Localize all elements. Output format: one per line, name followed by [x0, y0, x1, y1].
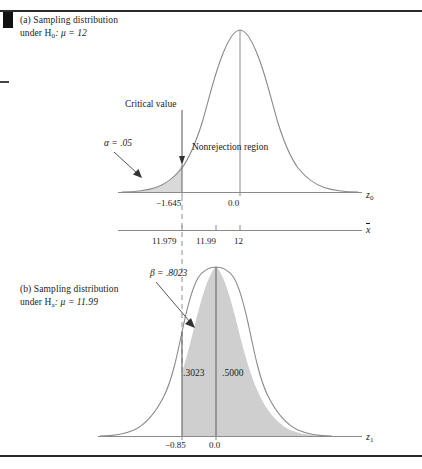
panel-a-caption-line2-prefix: under H — [20, 28, 52, 38]
panel-a-caption-line1: (a) Sampling distribution — [20, 15, 118, 25]
panel-b-axis-label-sub: 1 — [370, 436, 374, 444]
panel-a-caption-line2-suffix: : μ = 12 — [55, 28, 87, 38]
beta-arrow-head — [185, 318, 195, 328]
alpha-label: α = .05 — [104, 138, 132, 148]
panel-b-caption-line1: (b) Sampling distribution — [20, 284, 119, 294]
area-left-label: .3023 — [183, 368, 204, 378]
xbar-axis-label: x — [366, 224, 370, 235]
panel-b-caption-line2-prefix: under H — [20, 297, 52, 307]
figure-graphics — [0, 0, 422, 469]
panel-b-axis-label: z1 — [366, 431, 373, 444]
critical-value-arrow-head — [179, 156, 185, 165]
beta-region-shade — [182, 267, 332, 436]
figure-container: (a) Sampling distribution under H0: μ = … — [0, 0, 422, 469]
panel-b-caption: (b) Sampling distribution under Ha: μ = … — [20, 283, 119, 311]
panel-b-caption-line2-suffix: : μ = 11.99 — [55, 297, 98, 307]
alpha-tail-shade — [122, 165, 182, 192]
panel-a-axis-label: z0 — [366, 189, 373, 202]
nonrejection-region-label: Nonrejection region — [192, 142, 268, 152]
beta-label: β = .8023 — [150, 268, 187, 278]
alpha-arrow-shaft — [114, 152, 138, 174]
beta-arrow-shaft — [156, 282, 190, 322]
area-right-label: .5000 — [222, 368, 243, 378]
xbar-tick-label-12: 12 — [234, 236, 243, 246]
panel-a-tick-label-zero: 0.0 — [228, 198, 239, 208]
panel-a-caption: (a) Sampling distribution under H0: μ = … — [20, 14, 118, 42]
xbar-tick-label-1199: 11.99 — [196, 236, 216, 246]
panel-a-axis-label-sub: 0 — [370, 194, 374, 202]
critical-value-label: Critical value — [125, 99, 176, 109]
panel-a-tick-label-critical: −1.645 — [156, 198, 181, 208]
panel-b-tick-label-critical: −0.85 — [165, 440, 186, 450]
xbar-tick-label-11979: 11.979 — [152, 236, 176, 246]
xbar-axis-label-text: x — [366, 224, 370, 235]
panel-b-tick-label-zero: 0.0 — [209, 440, 220, 450]
